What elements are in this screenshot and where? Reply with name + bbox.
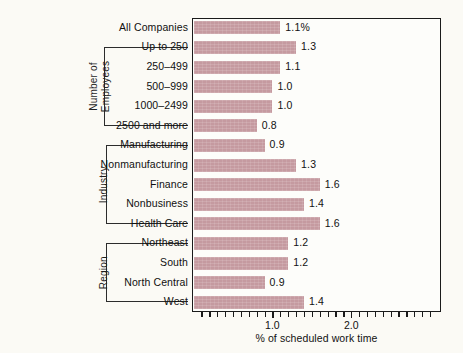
category-label: Nonbusiness xyxy=(126,197,188,209)
category-label: Health Care xyxy=(131,217,188,229)
category-label: 2500 and more xyxy=(116,119,188,131)
bars-layer: 1.1%1.31.11.01.00.80.91.31.61.41.61.21.2… xyxy=(194,18,440,312)
x-axis-minor-tick xyxy=(367,312,368,317)
category-label: Finance xyxy=(150,178,188,190)
x-axis-title: % of scheduled work time xyxy=(192,332,441,344)
x-axis-major-tick xyxy=(272,312,273,318)
x-axis-ticks: 1.02.0 xyxy=(192,312,441,319)
x-axis-minor-tick xyxy=(209,312,210,317)
bar-value-label: 1.2 xyxy=(293,256,308,268)
x-axis-minor-tick xyxy=(430,312,431,317)
bar-value-label: 1.6 xyxy=(325,178,340,190)
x-axis-minor-tick xyxy=(406,312,407,317)
x-axis-minor-tick xyxy=(391,312,392,317)
x-axis-minor-tick xyxy=(398,312,399,317)
bar-chart-figure: Number ofEmployeesIndustryRegion All Com… xyxy=(0,0,463,353)
bar xyxy=(194,237,289,250)
category-label: 500–999 xyxy=(146,80,188,92)
bar-value-label: 1.0 xyxy=(277,99,292,111)
x-axis-minor-tick xyxy=(265,312,266,317)
bar-value-label: 0.9 xyxy=(270,138,285,150)
category-label: Nonmanufacturing xyxy=(101,158,188,170)
bar xyxy=(194,178,320,191)
x-axis-minor-tick xyxy=(335,312,336,317)
bar xyxy=(194,276,265,289)
x-axis-minor-tick xyxy=(225,312,226,317)
bar-value-label: 1.3 xyxy=(301,40,316,52)
x-axis-minor-tick xyxy=(304,312,305,317)
category-label: Manufacturing xyxy=(120,138,188,150)
bar-value-label: 1.4 xyxy=(309,295,324,307)
x-axis-minor-tick xyxy=(383,312,384,317)
x-axis-minor-tick xyxy=(414,312,415,317)
x-axis-tick-label: 1.0 xyxy=(265,319,280,331)
x-axis-major-tick xyxy=(351,312,352,318)
bar-value-label: 0.9 xyxy=(270,276,285,288)
x-axis-minor-tick xyxy=(257,312,258,317)
bar-value-label: 1.1 xyxy=(285,60,300,72)
category-label: Northeast xyxy=(142,236,188,248)
bar xyxy=(194,119,257,132)
bar xyxy=(194,21,281,34)
x-axis-minor-tick xyxy=(217,312,218,317)
x-axis-minor-tick xyxy=(280,312,281,317)
x-axis-minor-tick xyxy=(320,312,321,317)
category-label: South xyxy=(160,256,188,268)
x-axis-minor-tick xyxy=(359,312,360,317)
x-axis-minor-tick xyxy=(343,312,344,317)
bar-value-label: 1.4 xyxy=(309,197,324,209)
bar xyxy=(194,296,304,309)
x-axis-minor-tick xyxy=(312,312,313,317)
bar-value-label: 1.6 xyxy=(325,217,340,229)
x-axis-minor-tick xyxy=(288,312,289,317)
bar xyxy=(194,139,265,152)
bar xyxy=(194,217,320,230)
x-axis-minor-tick xyxy=(375,312,376,317)
category-label: West xyxy=(164,295,188,307)
category-label: All Companies xyxy=(119,21,188,33)
bar-value-label: 1.1% xyxy=(285,21,310,33)
x-axis-minor-tick xyxy=(249,312,250,317)
category-label: 250–499 xyxy=(146,60,188,72)
bar xyxy=(194,159,296,172)
x-axis-minor-tick xyxy=(201,312,202,317)
bar xyxy=(194,61,281,74)
x-axis-minor-tick xyxy=(296,312,297,317)
x-axis-tick-label: 2.0 xyxy=(344,319,359,331)
bar-value-label: 1.0 xyxy=(277,80,292,92)
category-label: 1000–2499 xyxy=(135,99,188,111)
bar-value-label: 1.2 xyxy=(293,236,308,248)
x-axis-minor-tick xyxy=(233,312,234,317)
category-label: Up to 250 xyxy=(142,40,188,52)
bar xyxy=(194,198,304,211)
bar xyxy=(194,257,289,270)
bar xyxy=(194,41,296,54)
bar-value-label: 0.8 xyxy=(262,119,277,131)
bar xyxy=(194,100,273,113)
category-label: North Central xyxy=(124,276,188,288)
bar-value-label: 1.3 xyxy=(301,158,316,170)
category-label-column: All CompaniesUp to 250250–499500–9991000… xyxy=(0,0,188,353)
x-axis-minor-tick xyxy=(328,312,329,317)
bar xyxy=(194,80,273,93)
x-axis-minor-tick xyxy=(241,312,242,317)
x-axis-minor-tick xyxy=(422,312,423,317)
